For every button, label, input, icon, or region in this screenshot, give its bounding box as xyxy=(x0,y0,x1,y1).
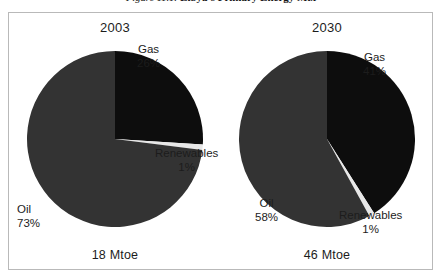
panel-year-2003: 2003 xyxy=(9,20,221,35)
slice-label-renewables-2003-pct: 1% xyxy=(155,161,218,175)
slice-label-oil-2003: Oil 73% xyxy=(17,203,40,230)
pie-chart-2003 xyxy=(9,49,221,235)
slice-label-renewables-2003-name: Renewables xyxy=(155,147,218,159)
panel-total-2030: 46 Mtoe xyxy=(221,248,433,262)
figure-title: Libya's Primary Energy Mix xyxy=(180,0,316,3)
slice-label-gas-2003: Gas 26% xyxy=(137,43,160,70)
figure-caption: Figure 11.1. Libya's Primary Energy Mix xyxy=(0,0,442,4)
slice-label-renewables-2030: Renewables 1% xyxy=(339,209,402,236)
panel-year-2030: 2030 xyxy=(221,20,433,35)
slice-label-oil-2030-pct: 58% xyxy=(255,211,278,225)
slice-label-gas-2030-pct: 41% xyxy=(363,65,386,79)
slice-label-renewables-2030-name: Renewables xyxy=(339,209,402,221)
slice-label-oil-2003-name: Oil xyxy=(17,203,31,215)
slice-label-gas-2030-name: Gas xyxy=(364,51,385,63)
chart-frame: 2003 Gas 26% Renewables 1% Oil 73% 18 Mt… xyxy=(8,12,433,270)
slice-label-renewables-2003: Renewables 1% xyxy=(155,147,218,174)
pie-svg-2003 xyxy=(25,49,205,229)
figure-number: Figure 11.1. xyxy=(126,0,177,3)
pie-chart-2030 xyxy=(221,49,433,235)
slice-label-gas-2030: Gas 41% xyxy=(363,51,386,78)
slice-label-renewables-2030-pct: 1% xyxy=(339,223,402,237)
slice-label-oil-2030-name: Oil xyxy=(259,197,273,209)
slice-label-oil-2003-pct: 73% xyxy=(17,217,40,231)
pie-panel-2003: 2003 Gas 26% Renewables 1% Oil 73% 18 Mt… xyxy=(9,13,221,269)
slice-label-gas-2003-name: Gas xyxy=(138,43,159,55)
slice-label-oil-2030: Oil 58% xyxy=(255,197,278,224)
pie-panel-2030: 2030 Gas 41% Renewables 1% Oil 58% 46 Mt… xyxy=(221,13,433,269)
panel-total-2003: 18 Mtoe xyxy=(9,248,221,262)
slice-label-gas-2003-pct: 26% xyxy=(137,57,160,71)
